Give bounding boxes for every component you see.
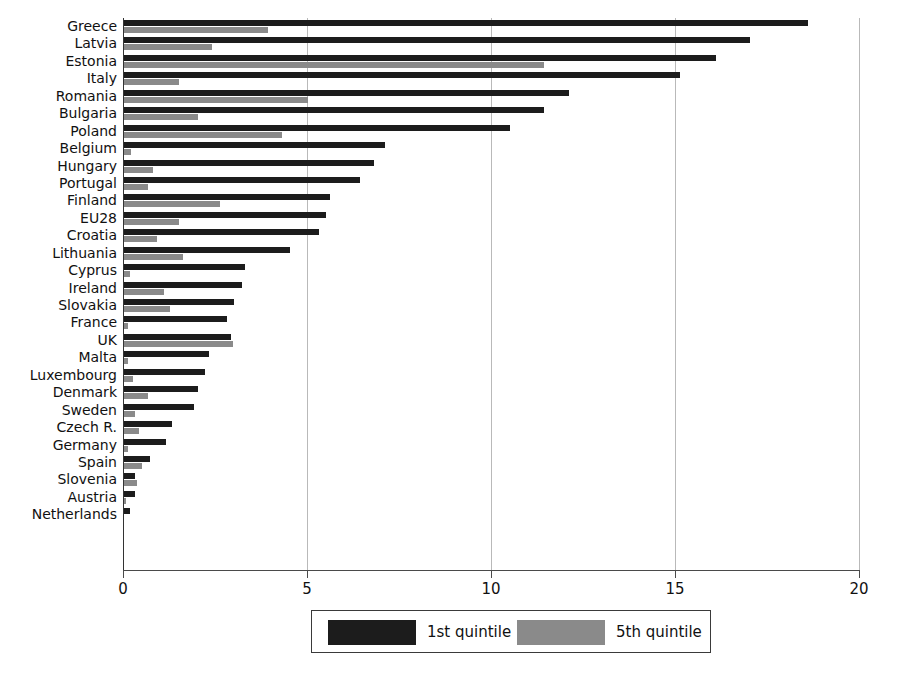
bar-row: Belgium xyxy=(0,140,900,157)
bar-row: Latvia xyxy=(0,35,900,52)
bar-row: Lithuania xyxy=(0,245,900,262)
bar-fifth-quintile xyxy=(124,44,212,50)
bar-fifth-quintile xyxy=(124,132,282,138)
bar-fifth-quintile xyxy=(124,271,130,277)
bar-first-quintile xyxy=(124,194,330,200)
bar-first-quintile xyxy=(124,334,231,340)
bar-row: Hungary xyxy=(0,158,900,175)
bar-first-quintile xyxy=(124,473,135,479)
x-tick-label-20: 20 xyxy=(849,580,868,598)
bar-row: Cyprus xyxy=(0,262,900,279)
category-label-luxembourg: Luxembourg xyxy=(30,367,117,384)
bar-fifth-quintile xyxy=(124,254,183,260)
category-label-ireland: Ireland xyxy=(69,280,117,297)
bar-row: Denmark xyxy=(0,384,900,401)
category-label-eu28: EU28 xyxy=(80,210,117,227)
bar-fifth-quintile xyxy=(124,393,148,399)
legend-label-first-quintile: 1st quintile xyxy=(427,623,511,641)
bar-fifth-quintile xyxy=(124,411,135,417)
category-label-latvia: Latvia xyxy=(74,35,117,52)
bar-fifth-quintile xyxy=(124,114,198,120)
bar-first-quintile xyxy=(124,439,166,445)
category-label-cyprus: Cyprus xyxy=(68,262,117,279)
bar-fifth-quintile xyxy=(124,27,268,33)
bar-row: Greece xyxy=(0,18,900,35)
bar-row: Austria xyxy=(0,489,900,506)
category-label-italy: Italy xyxy=(87,70,117,87)
bar-row: France xyxy=(0,314,900,331)
bar-row: Finland xyxy=(0,192,900,209)
bar-row: UK xyxy=(0,332,900,349)
bar-fifth-quintile xyxy=(124,323,128,329)
bar-first-quintile xyxy=(124,247,290,253)
bar-first-quintile xyxy=(124,351,209,357)
category-label-estonia: Estonia xyxy=(65,53,117,70)
category-label-slovakia: Slovakia xyxy=(58,297,117,314)
bar-first-quintile xyxy=(124,456,150,462)
category-label-slovenia: Slovenia xyxy=(57,471,117,488)
category-label-belgium: Belgium xyxy=(60,140,117,157)
bar-first-quintile xyxy=(124,421,172,427)
bar-first-quintile xyxy=(124,282,242,288)
bar-first-quintile xyxy=(124,404,194,410)
legend-entry-fifth-quintile: 5th quintile xyxy=(517,619,702,645)
bar-fifth-quintile xyxy=(124,236,157,242)
bar-row: Netherlands xyxy=(0,506,900,523)
bar-fifth-quintile xyxy=(124,184,148,190)
legend-swatch-first-quintile xyxy=(328,620,416,645)
legend-swatch-fifth-quintile xyxy=(517,620,605,645)
x-tick-0 xyxy=(123,570,124,578)
bar-row: Romania xyxy=(0,88,900,105)
bar-row: Sweden xyxy=(0,402,900,419)
bar-first-quintile xyxy=(124,316,227,322)
bar-fifth-quintile xyxy=(124,62,544,68)
bar-row: Portugal xyxy=(0,175,900,192)
bar-fifth-quintile xyxy=(124,498,126,504)
category-label-malta: Malta xyxy=(78,349,117,366)
chart-legend: 1st quintile 5th quintile xyxy=(311,610,711,653)
bar-row: Ireland xyxy=(0,280,900,297)
bar-fifth-quintile xyxy=(124,376,133,382)
bar-first-quintile xyxy=(124,264,245,270)
x-tick-label-0: 0 xyxy=(118,580,128,598)
category-label-poland: Poland xyxy=(70,123,117,140)
bar-first-quintile xyxy=(124,72,680,78)
x-tick-label-5: 5 xyxy=(302,580,312,598)
bar-fifth-quintile xyxy=(124,201,220,207)
bar-chart: 05101520 GreeceLatviaEstoniaItalyRomania… xyxy=(0,0,900,681)
category-label-finland: Finland xyxy=(67,192,117,209)
bar-fifth-quintile xyxy=(124,306,170,312)
x-tick-20 xyxy=(859,570,860,578)
category-label-austria: Austria xyxy=(68,489,117,506)
category-label-bulgaria: Bulgaria xyxy=(59,105,117,122)
bar-fifth-quintile xyxy=(124,149,131,155)
x-tick-label-10: 10 xyxy=(481,580,500,598)
bar-first-quintile xyxy=(124,508,130,514)
category-label-portugal: Portugal xyxy=(59,175,117,192)
category-label-france: France xyxy=(70,314,117,331)
bar-row: Italy xyxy=(0,70,900,87)
category-label-spain: Spain xyxy=(78,454,117,471)
bar-row: EU28 xyxy=(0,210,900,227)
category-label-netherlands: Netherlands xyxy=(32,506,117,523)
bar-first-quintile xyxy=(124,125,510,131)
bar-first-quintile xyxy=(124,386,198,392)
bar-first-quintile xyxy=(124,299,234,305)
x-tick-15 xyxy=(675,570,676,578)
category-label-sweden: Sweden xyxy=(62,402,117,419)
bar-first-quintile xyxy=(124,20,808,26)
bar-fifth-quintile xyxy=(124,463,142,469)
bar-row: Luxembourg xyxy=(0,367,900,384)
bar-first-quintile xyxy=(124,37,750,43)
x-tick-10 xyxy=(491,570,492,578)
bar-fifth-quintile xyxy=(124,446,128,452)
category-label-lithuania: Lithuania xyxy=(52,245,117,262)
category-label-romania: Romania xyxy=(56,88,117,105)
bar-first-quintile xyxy=(124,369,205,375)
bar-first-quintile xyxy=(124,160,374,166)
bar-first-quintile xyxy=(124,212,326,218)
category-label-uk: UK xyxy=(98,332,117,349)
bar-fifth-quintile xyxy=(124,79,179,85)
bar-first-quintile xyxy=(124,90,569,96)
legend-label-fifth-quintile: 5th quintile xyxy=(616,623,702,641)
